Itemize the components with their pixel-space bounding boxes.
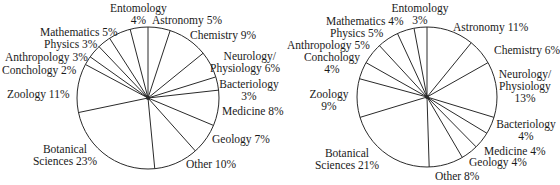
pie-chart-right: Entomology 3% Astronomy 11% Chemistry 6%… — [278, 0, 556, 185]
label-conchology: Conchology 2% — [2, 64, 76, 76]
label-botanical: Botanical Sciences 21% — [312, 147, 382, 171]
label-zoology: Zoology 11% — [7, 88, 70, 100]
label-geology: Geology 7% — [212, 133, 270, 145]
label-botanical: Botanical Sciences 23% — [30, 143, 100, 167]
label-chemistry: Chemistry 6% — [494, 44, 560, 56]
label-bacteriology: Bacteriology 3% — [218, 78, 280, 102]
label-medicine: Medicine 8% — [222, 105, 284, 117]
label-zoology: Zoology 9% — [308, 88, 350, 112]
label-bacteriology: Bacteriology 4% — [496, 118, 556, 142]
label-conchology: Conchology 4% — [302, 51, 362, 75]
label-anthropology: Anthropology 3% — [5, 51, 88, 63]
label-neurology: Neurology/ Physiology 13% — [494, 68, 556, 104]
label-physics: Physics 5% — [330, 27, 383, 39]
label-mathematics: Mathematics 5% — [40, 26, 118, 38]
label-physics: Physics 3% — [44, 38, 97, 50]
label-anthropology: Anthropology 5% — [287, 39, 370, 51]
pie-center — [146, 96, 150, 100]
label-chemistry: Chemistry 9% — [190, 29, 256, 41]
pie-center — [425, 95, 429, 99]
pie-chart-left: Entomology 4% Astronomy 5% Chemistry 9% … — [0, 0, 278, 185]
label-mathematics: Mathematics 4% — [326, 15, 404, 27]
label-geology: Geology 4% — [469, 156, 527, 168]
label-astronomy: Astronomy 11% — [453, 21, 528, 33]
label-other: Other 8% — [435, 170, 479, 182]
label-neurology: Neurology/ Physiology 6% — [210, 50, 276, 74]
label-astronomy: Astronomy 5% — [152, 14, 222, 26]
label-other: Other 10% — [186, 158, 236, 170]
